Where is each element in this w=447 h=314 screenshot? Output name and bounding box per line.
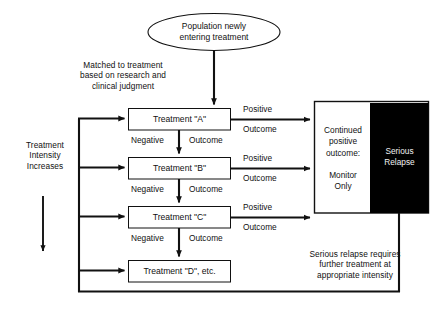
start-node-label: Population newly entering treatment xyxy=(148,21,280,43)
intensity-note-text: Treatment Intensity Increases xyxy=(10,140,80,171)
outcome-label-a: Outcome xyxy=(189,135,223,145)
outcome-label-c: Outcome xyxy=(189,233,223,243)
treatment-d-label: Treatment "D", etc. xyxy=(128,260,231,282)
positive-outcome-label-b: Outcome xyxy=(243,173,277,183)
positive-outcome-label-a: Outcome xyxy=(243,124,277,134)
treatment-c-label: Treatment "C" xyxy=(128,206,231,228)
continued-positive-outcome-text: Continued positive outcome: xyxy=(318,125,368,159)
negative-label-a: Negative xyxy=(131,135,164,145)
outcome-label-b: Outcome xyxy=(189,184,223,194)
treatment-a-label: Treatment "A" xyxy=(128,108,231,130)
entry-note-text: Matched to treatment based on research a… xyxy=(62,60,184,91)
positive-label-c: Positive xyxy=(243,202,272,212)
serious-relapse-text: Serious Relapse xyxy=(370,146,429,169)
relapse-note-text: Serious relapse requires further treatme… xyxy=(290,249,420,280)
negative-label-c: Negative xyxy=(131,233,164,243)
positive-label-a: Positive xyxy=(243,104,272,114)
flowchart-diagram: Population newly entering treatment Matc… xyxy=(0,0,447,314)
treatment-b-label: Treatment "B" xyxy=(128,157,231,179)
positive-label-b: Positive xyxy=(243,153,272,163)
monitor-only-text: Monitor Only xyxy=(318,170,368,193)
negative-label-b: Negative xyxy=(131,184,164,194)
positive-outcome-label-c: Outcome xyxy=(243,222,277,232)
